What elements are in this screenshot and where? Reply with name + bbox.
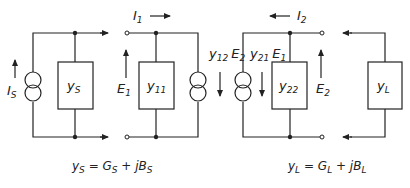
- input-terminal-top: [125, 31, 129, 35]
- two-port-input: I1 E1 y11 y12E2: [117, 8, 245, 139]
- y12e2-label: y12E2: [208, 46, 245, 63]
- circuit-diagram: IS yS I1 E1 y11 y12E2: [0, 0, 410, 188]
- is-label: IS: [7, 83, 17, 100]
- current-source-is-icon: [25, 72, 41, 101]
- y21e1-label: y21E1: [249, 46, 286, 63]
- i2-label: I2: [297, 8, 307, 25]
- output-terminal-bottom: [320, 135, 324, 139]
- load-admittance-equation: yL = GL + jBL: [287, 159, 366, 175]
- load-network: yL: [343, 33, 402, 137]
- source-network: IS yS: [7, 31, 108, 139]
- junction-dot: [154, 135, 158, 139]
- junction-dot: [154, 31, 158, 35]
- load-top-wire: [350, 33, 385, 62]
- e2-label: E2: [316, 81, 330, 98]
- two-port-output: y21E1 y22 I2 E2: [235, 8, 330, 139]
- load-bottom-wire: [350, 109, 385, 137]
- junction-dot: [73, 135, 77, 139]
- e1-label: E1: [117, 81, 131, 98]
- junction-dot: [73, 31, 77, 35]
- dependent-source-y21e1-icon: [235, 72, 251, 101]
- junction-dot: [288, 31, 292, 35]
- i1-label: I1: [133, 8, 143, 25]
- input-terminal-bottom: [125, 135, 129, 139]
- source-admittance-equation: yS = GS + jBS: [71, 159, 153, 175]
- output-terminal-top: [320, 31, 324, 35]
- dependent-source-y12e2-icon: [190, 72, 206, 101]
- junction-dot: [288, 135, 292, 139]
